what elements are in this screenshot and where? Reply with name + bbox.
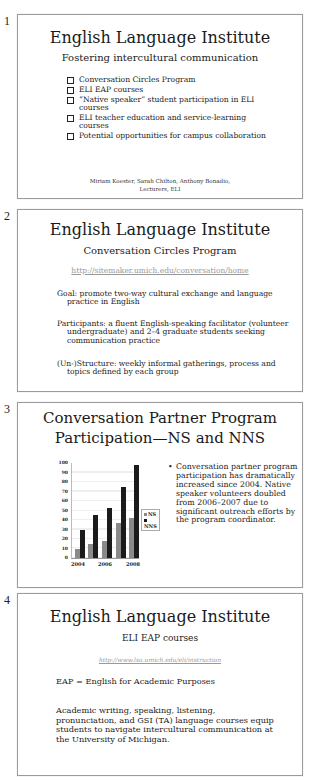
bar-nns-2008 xyxy=(134,465,139,558)
slide-title: English Language Institute xyxy=(18,29,302,47)
chart-legend: NS NNS xyxy=(141,509,160,531)
list-item: Potential opportunities for campus colla… xyxy=(67,132,267,140)
legend-swatch-ns xyxy=(144,513,147,516)
slide-subtitle: Conversation Circles Program xyxy=(18,245,302,256)
bullet-list: Conversation Circles Program ELI EAP cou… xyxy=(67,76,267,142)
list-item: “Native speaker” student participation i… xyxy=(67,96,267,112)
slide-title: English Language Institute xyxy=(18,221,302,239)
slide-4[interactable]: English Language Institute ELI EAP cours… xyxy=(17,593,303,776)
slide-subtitle: ELI EAP courses xyxy=(18,633,302,643)
slide-2[interactable]: English Language Institute Conversation … xyxy=(17,209,303,392)
list-item: ELI EAP courses xyxy=(67,86,267,94)
authors: Miriam Koester, Sarah Chilton, Anthony B… xyxy=(18,178,302,185)
bar-nns-2004 xyxy=(80,530,85,559)
bar-chart: 100 90 80 70 60 50 40 30 20 10 0 2004 xyxy=(54,463,159,578)
goal-paragraph: Goal: promote two-way cultural exchange … xyxy=(57,290,297,307)
slide-number: 2 xyxy=(4,209,10,224)
slide-number: 4 xyxy=(4,593,10,608)
slide-number: 1 xyxy=(4,14,10,29)
bar-nns-2007 xyxy=(121,487,126,558)
slide-1[interactable]: English Language Institute Fostering int… xyxy=(17,14,303,199)
y-axis-labels: 100 90 80 70 60 50 40 30 20 10 0 xyxy=(54,463,68,559)
slide-3[interactable]: Conversation Partner Program Participati… xyxy=(17,402,303,588)
list-item: ELI teacher education and service-learni… xyxy=(67,114,267,130)
checkbox-bullet-icon xyxy=(67,77,74,84)
slide-title: English Language Institute xyxy=(18,608,302,626)
program-link[interactable]: http://sitemaker.umich.edu/conversation/… xyxy=(18,266,302,275)
bar-nns-2005 xyxy=(93,515,98,558)
chart-description: • Conversation partner program participa… xyxy=(168,463,304,525)
eap-description: Academic writing, speaking, listening, p… xyxy=(56,706,276,744)
participants-paragraph: Participants: a fluent English-speaking … xyxy=(57,320,297,345)
checkbox-bullet-icon xyxy=(67,87,74,94)
slide-subtitle: Fostering intercultural communication xyxy=(18,52,302,63)
bullet-dot-icon: • xyxy=(168,463,173,472)
checkbox-bullet-icon xyxy=(67,97,74,104)
structure-paragraph: (Un-)Structure: weekly informal gatherin… xyxy=(57,360,297,377)
authors-role: Lecturers, ELI xyxy=(18,186,302,193)
eap-definition: EAP = English for Academic Purposes xyxy=(56,677,296,685)
slide-title-line2: Participation—NS and NNS xyxy=(18,429,302,447)
slide-title-line1: Conversation Partner Program xyxy=(18,409,302,427)
slide-number: 3 xyxy=(4,402,10,417)
bar-nns-2006 xyxy=(107,508,112,558)
plot-area xyxy=(71,463,139,559)
checkbox-bullet-icon xyxy=(67,133,74,140)
list-item: Conversation Circles Program xyxy=(67,76,267,84)
instruction-link[interactable]: http://www.lsa.umich.edu/eli/instruction xyxy=(18,656,302,663)
legend-swatch-nns xyxy=(144,519,147,522)
checkbox-bullet-icon xyxy=(67,115,74,122)
